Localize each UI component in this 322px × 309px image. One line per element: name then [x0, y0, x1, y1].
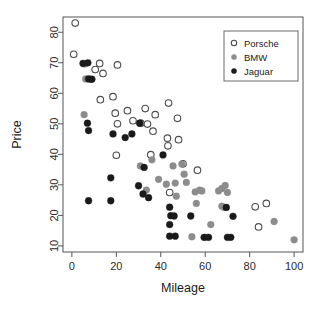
data-point	[207, 221, 214, 228]
data-point	[255, 224, 262, 231]
data-point	[172, 233, 179, 240]
data-point	[110, 93, 117, 100]
data-point	[193, 200, 200, 207]
data-point	[164, 135, 171, 142]
data-point	[142, 105, 149, 112]
data-point	[107, 197, 114, 204]
data-point	[70, 51, 77, 58]
y-tick-label: 50	[48, 118, 60, 130]
data-point	[85, 127, 92, 134]
data-point	[166, 189, 173, 196]
legend-marker-open-circle	[231, 40, 236, 45]
data-point	[114, 121, 121, 128]
data-point	[227, 234, 234, 241]
x-axis-title: Mileage	[161, 281, 205, 295]
data-point	[144, 121, 151, 128]
data-point	[187, 213, 194, 220]
data-point	[130, 117, 137, 124]
y-tick-label: 10	[48, 240, 60, 252]
data-point	[175, 136, 182, 143]
data-point	[114, 62, 121, 69]
data-point	[100, 70, 107, 77]
data-point	[141, 164, 148, 171]
data-point	[271, 218, 278, 225]
x-tick-label: 60	[199, 260, 211, 272]
data-point	[110, 130, 117, 137]
legend-marker-black-dot	[231, 68, 236, 73]
data-point	[72, 20, 79, 27]
legend-label: Jaguar	[244, 66, 273, 77]
data-point	[224, 189, 231, 196]
data-point	[163, 181, 170, 188]
y-tick-label: 40	[48, 148, 60, 160]
data-point	[178, 161, 185, 168]
data-point	[155, 176, 162, 183]
data-point	[124, 107, 131, 114]
data-point	[181, 171, 188, 178]
data-point	[263, 200, 270, 207]
data-point	[171, 213, 178, 220]
data-point	[92, 66, 99, 73]
data-point	[88, 76, 95, 83]
y-tick-label: 20	[48, 209, 60, 221]
chart-legend: PorscheBMWJaguar	[224, 31, 298, 81]
data-point	[252, 204, 259, 211]
data-point	[188, 233, 195, 240]
data-point	[97, 96, 104, 103]
legend-label: BMW	[244, 52, 267, 63]
y-tick-label: 30	[48, 179, 60, 191]
data-point	[170, 163, 177, 170]
data-point	[230, 213, 237, 220]
data-point	[165, 142, 172, 149]
data-point	[81, 111, 88, 118]
legend-label: Porsche	[244, 38, 279, 49]
x-tick-label: 20	[110, 260, 122, 272]
data-point	[291, 236, 298, 243]
data-point	[136, 120, 143, 127]
data-point	[166, 204, 173, 211]
data-point	[128, 130, 135, 137]
data-point	[160, 152, 167, 159]
data-point	[152, 111, 159, 118]
data-point	[166, 221, 173, 228]
y-tick-label: 70	[48, 57, 60, 69]
data-point	[107, 174, 114, 181]
data-point	[84, 59, 91, 66]
data-point	[150, 128, 157, 135]
data-point	[172, 180, 179, 187]
data-point	[85, 197, 92, 204]
y-axis-title: Price	[10, 120, 24, 149]
plot-canvas: 0204060801001020304050607080MileagePrice…	[0, 0, 322, 309]
y-tick-label: 60	[48, 87, 60, 99]
data-point	[174, 115, 181, 122]
data-point	[112, 110, 119, 117]
data-point	[135, 182, 142, 189]
x-tick-label: 100	[285, 260, 303, 272]
data-point	[223, 204, 230, 211]
data-point	[122, 134, 129, 141]
y-tick-label: 80	[48, 26, 60, 38]
data-point	[222, 182, 229, 189]
data-point	[96, 60, 103, 67]
data-point	[113, 152, 120, 159]
data-point	[145, 194, 152, 201]
data-point	[183, 179, 190, 186]
series-jaguar	[80, 59, 237, 240]
data-point	[173, 193, 180, 200]
x-tick-label: 40	[155, 260, 167, 272]
x-tick-label: 80	[244, 260, 256, 272]
x-tick-label: 0	[69, 260, 75, 272]
data-point	[148, 156, 155, 163]
data-point	[84, 120, 91, 127]
data-point	[194, 167, 201, 174]
data-point	[198, 188, 205, 195]
legend-marker-gray-dot	[231, 54, 236, 59]
data-point	[205, 234, 212, 241]
data-point	[165, 100, 172, 107]
scatter-plot-figure: 0204060801001020304050607080MileagePrice…	[0, 0, 322, 309]
